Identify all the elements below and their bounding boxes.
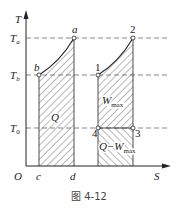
region-wmax xyxy=(98,38,133,128)
point-4-label: 4 xyxy=(92,127,98,139)
region-q-label: Q xyxy=(51,111,59,123)
t-axis-label: T xyxy=(15,13,22,25)
point-d-label: d xyxy=(70,170,76,182)
region-q-left xyxy=(39,38,74,166)
ta-label: Ta xyxy=(10,32,20,46)
point-a-label: a xyxy=(72,23,78,35)
point-1-label: 1 xyxy=(95,61,101,73)
figure-caption: 图 4-12 xyxy=(71,191,107,202)
point-2-label: 2 xyxy=(130,23,136,35)
t0-label: T0 xyxy=(10,122,20,136)
point-b-marker xyxy=(37,73,41,77)
point-b-label: b xyxy=(34,61,40,73)
point-c-label: c xyxy=(36,170,41,182)
s-axis-label: S xyxy=(154,170,160,182)
t-axis-arrow-icon xyxy=(24,10,29,19)
origin-label: O xyxy=(14,170,22,182)
ts-diagram: T S O Ta Tb T0 a b c d 1 2 3 4 Q Wmax Q−… xyxy=(0,0,177,213)
point-2-marker xyxy=(131,36,135,40)
point-1-marker xyxy=(96,73,100,77)
tb-label: Tb xyxy=(10,69,20,83)
point-a-marker xyxy=(72,36,76,40)
point-3-label: 3 xyxy=(135,127,141,139)
s-axis-arrow-icon xyxy=(162,164,171,169)
